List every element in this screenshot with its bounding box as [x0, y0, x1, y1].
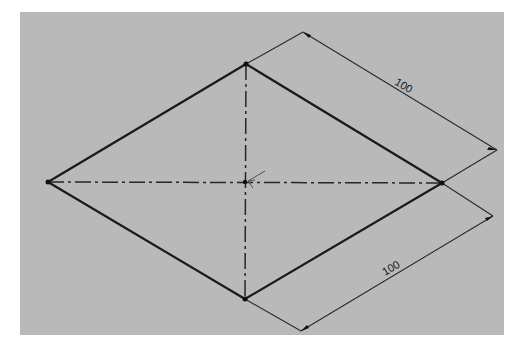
vertex-right-point[interactable] [440, 181, 445, 186]
lower-extension-line-2 [245, 299, 301, 331]
upper-extension-line-1 [246, 32, 303, 64]
edge-right-bottom[interactable] [245, 183, 442, 299]
cursor-arrow-icon [248, 171, 265, 188]
upper-extension-line-2 [442, 150, 497, 183]
lower-dimension-line[interactable] [301, 216, 493, 331]
lower-extension-line-1 [442, 183, 493, 216]
sketch-svg: 100 100 [0, 0, 514, 344]
edge-left-top[interactable] [48, 64, 246, 182]
sketch-canvas: 100 100 [0, 0, 514, 344]
lower-dimension-value[interactable]: 100 [380, 258, 402, 278]
edge-bottom-left[interactable] [48, 182, 245, 299]
vertex-bottom-point[interactable] [243, 297, 248, 302]
lower-arrowhead-end [301, 325, 309, 331]
vertex-top-point[interactable] [244, 62, 249, 67]
upper-dimension-value[interactable]: 100 [393, 75, 415, 95]
vertex-left-point[interactable] [46, 180, 51, 185]
edge-top-right[interactable] [246, 64, 442, 183]
upper-arrowhead-start [303, 32, 311, 38]
upper-dimension-line[interactable] [303, 32, 497, 150]
center-point[interactable] [243, 180, 247, 184]
